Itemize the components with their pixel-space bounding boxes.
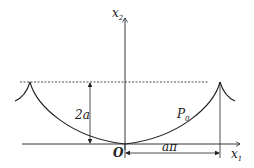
origin-label: O: [113, 146, 124, 160]
point-label: P0: [176, 107, 190, 123]
x1-axis-label: x1: [231, 147, 242, 163]
cycloid-diagram: x2 x1 O 2a aπ P0: [0, 0, 254, 168]
cycloid-left-branch: [15, 82, 30, 101]
width-label: aπ: [162, 140, 178, 154]
height-label: 2a: [74, 108, 90, 122]
cycloid-right-branch: [220, 82, 235, 101]
x2-axis-label: x2: [112, 6, 124, 22]
